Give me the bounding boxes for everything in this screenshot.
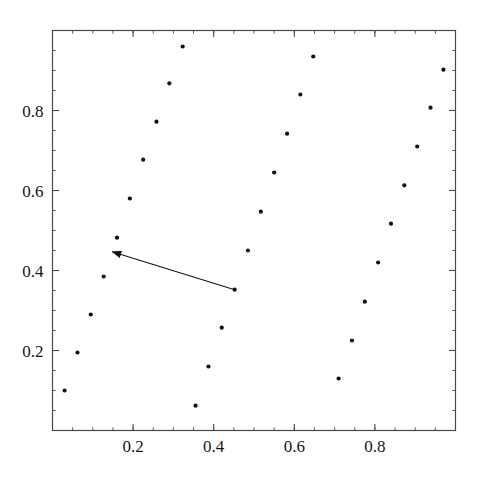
data-point bbox=[206, 364, 210, 368]
data-point bbox=[428, 106, 432, 110]
data-point bbox=[259, 210, 263, 214]
annotation-arrow-group bbox=[112, 252, 235, 290]
y-tick-label: 0.6 bbox=[22, 182, 43, 201]
data-point bbox=[389, 222, 393, 226]
y-tick-label: 0.2 bbox=[22, 342, 43, 361]
data-point bbox=[298, 92, 302, 96]
data-point bbox=[337, 376, 341, 380]
data-point bbox=[285, 132, 289, 136]
data-point bbox=[246, 248, 250, 252]
data-point-group bbox=[62, 44, 445, 407]
minor-ticks bbox=[53, 31, 456, 431]
data-point bbox=[441, 68, 445, 72]
y-tick-label: 0.8 bbox=[22, 102, 43, 121]
plot-canvas: 0.20.40.60.8 0.20.40.60.8 bbox=[0, 0, 483, 478]
y-tick-label: 0.4 bbox=[22, 262, 44, 281]
data-point bbox=[415, 144, 419, 148]
data-point bbox=[115, 236, 119, 240]
data-point bbox=[376, 260, 380, 264]
y-axis-tick-labels: 0.20.40.60.8 bbox=[22, 102, 44, 361]
plot-frame bbox=[53, 31, 456, 431]
annotation-arrow bbox=[112, 252, 235, 290]
data-point bbox=[141, 158, 145, 162]
data-point bbox=[220, 326, 224, 330]
data-point bbox=[102, 274, 106, 278]
data-point bbox=[89, 312, 93, 316]
data-point bbox=[350, 338, 354, 342]
data-point bbox=[402, 183, 406, 187]
data-point bbox=[193, 404, 197, 408]
data-point bbox=[154, 120, 158, 124]
data-point bbox=[272, 170, 276, 174]
data-point bbox=[363, 300, 367, 304]
scatter-plot: 0.20.40.60.8 0.20.40.60.8 bbox=[0, 0, 483, 478]
data-point bbox=[311, 54, 315, 58]
x-tick-label: 0.2 bbox=[122, 437, 143, 456]
data-point bbox=[181, 44, 185, 48]
x-axis-tick-labels: 0.20.40.60.8 bbox=[122, 437, 385, 456]
x-tick-label: 0.4 bbox=[203, 437, 225, 456]
major-ticks bbox=[53, 31, 456, 431]
x-tick-label: 0.6 bbox=[284, 437, 305, 456]
x-tick-label: 0.8 bbox=[364, 437, 385, 456]
data-point bbox=[62, 388, 66, 392]
data-point bbox=[128, 196, 132, 200]
data-point bbox=[167, 81, 171, 85]
data-point bbox=[75, 350, 79, 354]
